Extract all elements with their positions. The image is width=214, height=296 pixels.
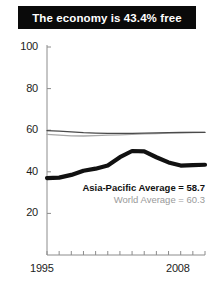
chart-tick-marks (47, 47, 205, 255)
y-axis-tick-label: 20 (8, 206, 38, 218)
x-axis-start-label: 1995 (30, 262, 54, 274)
chart-series-group (47, 131, 205, 178)
x-axis-end-label: 2008 (166, 262, 190, 274)
legend-item-world: World Average = 60.3 (60, 194, 205, 206)
y-axis-tick-label: 60 (8, 123, 38, 135)
legend-item-asia-pacific: Asia-Pacific Average = 58.7 (60, 182, 205, 194)
y-axis-tick-label: 80 (8, 82, 38, 94)
chart-figure: The economy is 43.4% free 100 80 60 40 2… (0, 0, 214, 296)
chart-legend: Asia-Pacific Average = 58.7 World Averag… (60, 182, 205, 206)
y-axis-tick-label: 100 (8, 40, 38, 52)
chart-axes (47, 45, 205, 255)
y-axis-tick-label: 40 (8, 165, 38, 177)
